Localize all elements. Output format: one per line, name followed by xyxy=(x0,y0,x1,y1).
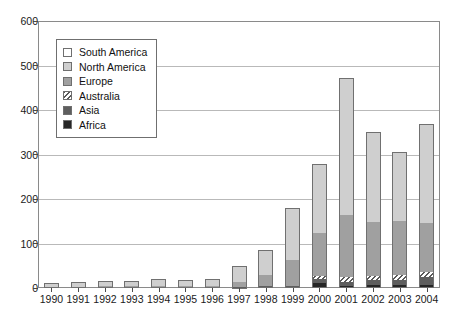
bar-segment-1999-europe xyxy=(285,260,300,285)
x-tick-mark xyxy=(400,288,401,292)
bar-segment-2001-north-america xyxy=(339,78,354,216)
asia-swatch xyxy=(63,106,72,115)
south-america-swatch xyxy=(63,48,72,57)
bar-segment-2003-europe xyxy=(392,221,407,274)
bar-segment-1999-north-america xyxy=(285,208,300,261)
bar-segment-1997-europe xyxy=(232,282,247,287)
x-tick-mark xyxy=(105,288,106,292)
bar-segment-2002-north-america xyxy=(366,132,381,222)
legend-item-europe[interactable]: Europe xyxy=(63,74,147,89)
x-tick-label-1992: 1992 xyxy=(93,294,116,305)
bar-1996 xyxy=(205,21,220,288)
bar-segment-2000-asia xyxy=(312,279,327,283)
bar-segment-2000-australia xyxy=(312,276,327,280)
x-tick-mark xyxy=(293,288,294,292)
x-tick-mark xyxy=(185,288,186,292)
bar-1995 xyxy=(178,21,193,288)
x-tick-label-2003: 2003 xyxy=(388,294,411,305)
x-tick-label-1990: 1990 xyxy=(40,294,63,305)
x-tick-mark xyxy=(212,288,213,292)
bar-2003 xyxy=(392,21,407,288)
legend-label: North America xyxy=(79,62,146,73)
bar-segment-1998-europe xyxy=(258,275,273,287)
x-tick-mark xyxy=(239,288,240,292)
x-tick-label-1993: 1993 xyxy=(120,294,143,305)
x-tick-label-1999: 1999 xyxy=(281,294,304,305)
bar-segment-1992-north-america xyxy=(98,281,113,285)
bar-segment-2004-europe xyxy=(419,223,434,272)
x-tick-label-1996: 1996 xyxy=(201,294,224,305)
bar-segment-1995-north-america xyxy=(178,280,193,286)
bar-segment-1996-north-america xyxy=(205,279,220,286)
bar-2000 xyxy=(312,21,327,288)
legend-item-asia[interactable]: Asia xyxy=(63,103,147,118)
bar-2002 xyxy=(366,21,381,288)
x-tick-mark xyxy=(427,288,428,292)
africa-swatch xyxy=(63,120,72,129)
bar-segment-1990-north-america xyxy=(44,283,59,287)
y-axis: 0100200300400500600 xyxy=(0,0,38,321)
bar-segment-1994-north-america xyxy=(151,279,166,286)
x-tick-label-2004: 2004 xyxy=(415,294,438,305)
bar-segment-2000-europe xyxy=(312,233,327,275)
bar-segment-2004-north-america xyxy=(419,124,434,223)
x-tick-mark xyxy=(132,288,133,292)
x-tick-mark xyxy=(78,288,79,292)
bar-segment-2001-asia xyxy=(339,282,354,286)
legend: South AmericaNorth AmericaEuropeAustrali… xyxy=(56,39,157,138)
bar-segment-2004-australia xyxy=(419,272,434,277)
x-tick-mark xyxy=(266,288,267,292)
bar-segment-2000-north-america xyxy=(312,164,327,233)
bar-segment-2003-australia xyxy=(392,275,407,280)
x-tick-label-1995: 1995 xyxy=(174,294,197,305)
legend-label: South America xyxy=(79,47,147,58)
bar-segment-2002-australia xyxy=(366,276,381,280)
x-tick-mark xyxy=(346,288,347,292)
bar-segment-2002-asia xyxy=(366,280,381,285)
bar-segment-1998-north-america xyxy=(258,250,273,275)
stacked-bar-chart: 0100200300400500600 19901991199219931994… xyxy=(0,0,450,321)
legend-label: Australia xyxy=(79,91,120,102)
bar-segment-2003-asia xyxy=(392,280,407,286)
legend-item-africa[interactable]: Africa xyxy=(63,118,147,133)
x-tick-mark xyxy=(373,288,374,292)
x-tick-label-2000: 2000 xyxy=(308,294,331,305)
legend-item-australia[interactable]: Australia xyxy=(63,89,147,104)
bar-segment-2002-europe xyxy=(366,222,381,275)
x-tick-label-1994: 1994 xyxy=(147,294,170,305)
x-tick-mark xyxy=(319,288,320,292)
bar-2004 xyxy=(419,21,434,288)
north-america-swatch xyxy=(63,62,72,71)
bar-1997 xyxy=(232,21,247,288)
x-tick-mark xyxy=(51,288,52,292)
bar-2001 xyxy=(339,21,354,288)
x-tick-label-1991: 1991 xyxy=(67,294,90,305)
x-tick-label-2001: 2001 xyxy=(335,294,358,305)
legend-label: Africa xyxy=(79,120,106,131)
legend-label: Europe xyxy=(79,76,113,87)
bar-segment-2001-europe xyxy=(339,215,354,276)
bar-segment-1993-north-america xyxy=(124,281,139,286)
bar-1998 xyxy=(258,21,273,288)
x-tick-label-1998: 1998 xyxy=(254,294,277,305)
x-tick-label-1997: 1997 xyxy=(227,294,250,305)
legend-item-south-america[interactable]: South America xyxy=(63,45,147,60)
bar-segment-1997-north-america xyxy=(232,266,247,282)
bar-segment-2003-north-america xyxy=(392,152,407,221)
bar-segment-2004-asia xyxy=(419,277,434,285)
europe-swatch xyxy=(63,77,72,86)
bar-segment-2001-australia xyxy=(339,277,354,282)
australia-swatch xyxy=(63,91,72,100)
legend-item-north-america[interactable]: North America xyxy=(63,60,147,75)
legend-label: Asia xyxy=(79,105,99,116)
bar-segment-1991-north-america xyxy=(71,282,86,287)
x-tick-label-2002: 2002 xyxy=(361,294,384,305)
bar-segment-1999-asia xyxy=(285,286,300,287)
x-tick-mark xyxy=(159,288,160,292)
bar-1999 xyxy=(285,21,300,288)
